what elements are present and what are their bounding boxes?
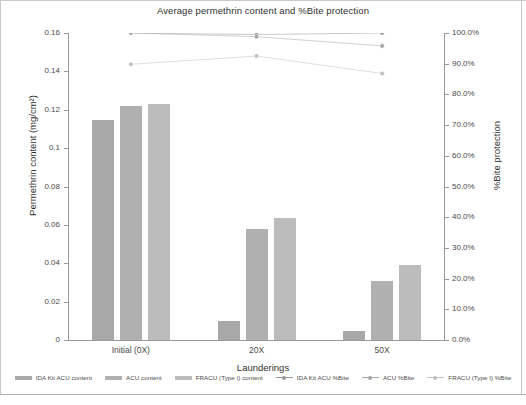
- y-axis-right-tick: [445, 248, 449, 249]
- bar: [120, 106, 142, 340]
- chart-title: Average permethrin content and %Bite pro…: [0, 5, 526, 16]
- legend-bar-swatch-icon: [105, 376, 122, 380]
- y-axis-right-tick: [445, 33, 449, 34]
- y-axis-right-tick-label: 10.0%: [452, 304, 498, 313]
- legend-item[interactable]: ACU %Bite: [362, 374, 414, 381]
- bar: [148, 104, 170, 340]
- bar: [343, 331, 365, 340]
- y-axis-right-tick-label: 0.0%: [452, 335, 498, 344]
- y-axis-right-tick: [445, 279, 449, 280]
- legend-item[interactable]: FRACU (Type I) content: [175, 374, 263, 381]
- x-axis-title: Launderings: [0, 362, 526, 373]
- x-axis-line: [68, 340, 445, 341]
- legend-item-label: ACU content: [126, 374, 162, 381]
- x-axis-tick-label: Initial (0X): [71, 345, 191, 355]
- legend-bar-swatch-icon: [175, 376, 192, 380]
- y-axis-right-tick: [445, 125, 449, 126]
- y-axis-right-tick-label: 20.0%: [452, 274, 498, 283]
- x-axis-tick-label: 50X: [322, 345, 442, 355]
- y-axis-left-tick-label: 0.06: [16, 220, 60, 229]
- legend-item-label: FRACU (Type I) %Bite: [448, 374, 511, 381]
- legend-marker-swatch-icon: [427, 375, 444, 381]
- y-axis-left-tick-label: 0.14: [16, 66, 60, 75]
- legend-item-label: ACU %Bite: [383, 374, 414, 381]
- bar: [399, 265, 421, 340]
- y-axis-right-tick: [445, 94, 449, 95]
- legend-item[interactable]: IDA Kit ACU %Bite: [276, 374, 349, 381]
- y-axis-left-tick: [64, 340, 68, 341]
- bar: [218, 321, 240, 340]
- y-axis-left-tick-label: 0.02: [16, 297, 60, 306]
- legend-item-label: IDA Kit ACU content: [36, 374, 92, 381]
- bar: [274, 218, 296, 340]
- y-axis-right-tick: [445, 156, 449, 157]
- y-axis-right-tick: [445, 340, 449, 341]
- y-axis-left-tick-label: 0.04: [16, 258, 60, 267]
- y-axis-right-tick: [445, 309, 449, 310]
- y-axis-left-tick-label: 0: [16, 335, 60, 344]
- x-axis-tick-label: 20X: [197, 345, 317, 355]
- legend-marker-swatch-icon: [362, 375, 379, 381]
- legend-marker-swatch-icon: [276, 375, 293, 381]
- legend-bar-swatch-icon: [15, 376, 32, 380]
- bar: [371, 281, 393, 340]
- y-axis-left-tick-label: 0.1: [16, 143, 60, 152]
- y-axis-left-tick-label: 0.12: [16, 105, 60, 114]
- chart-figure: Average permethrin content and %Bite pro…: [0, 0, 526, 405]
- bar: [246, 229, 268, 340]
- legend-item-label: FRACU (Type I) content: [196, 374, 263, 381]
- y-axis-right-tick-label: 100.0%: [452, 28, 498, 37]
- legend-item[interactable]: ACU content: [105, 374, 162, 381]
- bar: [92, 120, 114, 340]
- y-axis-left-title: Permethrin content (mg/cm²): [27, 56, 38, 256]
- figure-border-left: [0, 0, 1, 395]
- y-axis-left-tick-label: 0.16: [16, 28, 60, 37]
- legend-item-label: IDA Kit ACU %Bite: [297, 374, 349, 381]
- y-axis-left-tick-label: 0.08: [16, 182, 60, 191]
- plot-area: [68, 33, 444, 340]
- figure-border-right: [521, 0, 522, 395]
- y-axis-right-tick: [445, 64, 449, 65]
- y-axis-right-tick: [445, 217, 449, 218]
- legend-item[interactable]: FRACU (Type I) %Bite: [427, 374, 511, 381]
- chart-legend: IDA Kit ACU contentACU contentFRACU (Typ…: [0, 374, 526, 381]
- y-axis-right-tick: [445, 187, 449, 188]
- legend-item[interactable]: IDA Kit ACU content: [15, 374, 92, 381]
- figure-border-top: [0, 0, 526, 1]
- figure-border-bottom: [0, 394, 526, 395]
- y-axis-right-title: %Bite protection: [491, 56, 502, 256]
